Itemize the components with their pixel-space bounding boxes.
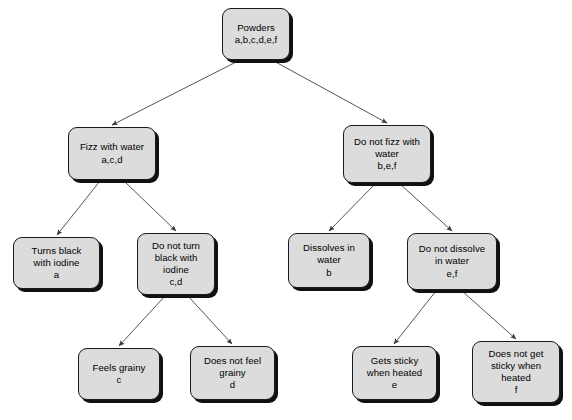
node-label: Turns black with iodine a: [29, 245, 85, 282]
diagram-canvas: Powders a,b,c,d,e,f Fizz with water a,c,…: [0, 0, 572, 420]
node-does-not-feel-grainy[interactable]: Does not feel grainy d: [190, 346, 275, 400]
node-label: Feels grainy c: [90, 362, 149, 386]
node-label: Do not turn black with iodine c,d: [149, 240, 203, 289]
node-dissolves-in-water[interactable]: Dissolves in water b: [288, 233, 370, 288]
node-fizz-with-water[interactable]: Fizz with water a,c,d: [68, 127, 156, 180]
node-gets-sticky-when-heated[interactable]: Gets sticky when heated e: [352, 346, 437, 400]
node-do-not-turn-black-with-iodine[interactable]: Do not turn black with iodine c,d: [137, 233, 215, 295]
node-label: Fizz with water a,c,d: [77, 141, 147, 165]
node-powders[interactable]: Powders a,b,c,d,e,f: [222, 8, 290, 60]
edge-nodissolve-to-nosticky: [462, 291, 516, 339]
edge-root-to-nofizz: [272, 60, 387, 123]
node-label: Does not feel grainy d: [201, 355, 264, 392]
edge-nofizz-to-dissolve: [329, 184, 375, 231]
edge-noblack-to-grainy: [119, 296, 165, 346]
edge-root-to-fizz: [112, 60, 240, 125]
node-do-not-fizz-with-water[interactable]: Do not fizz with water b,e,f: [343, 125, 431, 183]
edge-fizz-to-black: [57, 181, 100, 235]
edge-fizz-to-noblack: [124, 181, 176, 231]
node-label: Gets sticky when heated e: [364, 355, 426, 392]
node-turns-black-with-iodine[interactable]: Turns black with iodine a: [13, 237, 100, 289]
node-feels-grainy[interactable]: Feels grainy c: [78, 348, 160, 400]
node-label: Powders a,b,c,d,e,f: [232, 22, 281, 46]
node-label: Do not fizz with water b,e,f: [351, 136, 423, 173]
node-does-not-get-sticky-when-heated[interactable]: Does not get sticky when heated f: [472, 341, 560, 403]
node-do-not-dissolve-in-water[interactable]: Do not dissolve in water e,f: [407, 233, 497, 290]
edge-nofizz-to-nodissolve: [400, 184, 452, 231]
node-label: Do not dissolve in water e,f: [416, 243, 488, 280]
node-label: Dissolves in water b: [300, 242, 358, 279]
edge-nodissolve-to-sticky: [394, 291, 436, 344]
node-label: Does not get sticky when heated f: [485, 348, 546, 397]
edge-noblack-to-nograiny: [188, 296, 232, 344]
